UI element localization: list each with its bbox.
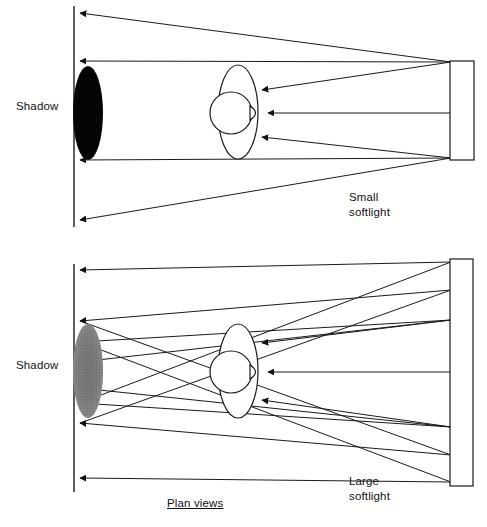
small-softlight-label-line1: Small bbox=[349, 190, 379, 204]
lighting-plan-views-diagram bbox=[0, 0, 487, 527]
shadow-label-bottom: Shadow bbox=[16, 358, 58, 372]
shadow-label-top: Shadow bbox=[16, 99, 58, 113]
large-softlight-source bbox=[450, 259, 473, 486]
subject-head-bottom bbox=[210, 351, 252, 393]
shadow-soft-ellipse bbox=[73, 324, 103, 418]
large-softlight-label-line2: softlight bbox=[349, 489, 390, 503]
diagram-canvas: Shadow Shadow Small softlight Large soft… bbox=[0, 0, 487, 527]
small-softlight-label-line2: softlight bbox=[349, 205, 390, 219]
plan-views-caption: Plan views bbox=[167, 496, 223, 510]
small-softlight-source bbox=[450, 61, 474, 160]
subject-head-top bbox=[210, 92, 252, 134]
shadow-hard-ellipse bbox=[73, 66, 103, 160]
large-softlight-label-line1: Large bbox=[349, 474, 379, 488]
